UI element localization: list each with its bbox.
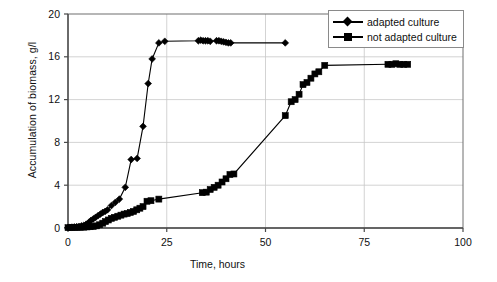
legend-label-adapted-culture: adapted culture <box>363 16 439 28</box>
chart-legend: adapted culture not adapted culture <box>328 10 464 48</box>
legend-item-adapted-culture[interactable]: adapted culture <box>333 14 457 29</box>
chart-figure: Accumulation of biomass, g/l Time, hours… <box>0 0 497 282</box>
data-series-layer <box>65 37 411 231</box>
square-marker-icon <box>333 31 363 43</box>
legend-item-not-adapted-culture[interactable]: not adapted culture <box>333 29 457 44</box>
legend-label-not-adapted-culture: not adapted culture <box>363 31 457 43</box>
diamond-marker-icon <box>333 16 363 28</box>
